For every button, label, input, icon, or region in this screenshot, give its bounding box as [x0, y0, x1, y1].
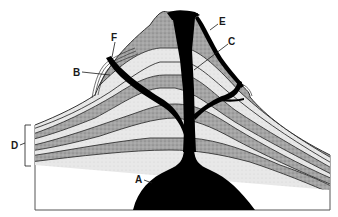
label-D-group: D [11, 125, 31, 166]
label-F-group: F [111, 32, 117, 57]
label-D: D [11, 140, 18, 151]
volcano-cross-section-diagram: A B C D E F [0, 0, 338, 217]
label-A: A [135, 174, 142, 185]
label-F: F [111, 32, 117, 43]
label-B: B [73, 67, 80, 78]
label-E-group: E [210, 16, 226, 30]
label-E: E [219, 16, 226, 27]
label-C: C [228, 36, 235, 47]
